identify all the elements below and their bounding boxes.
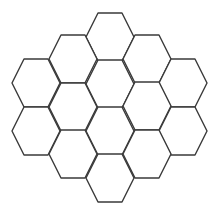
hexagon-grid — [0, 0, 218, 213]
hexagon-grid-diagram — [0, 0, 218, 213]
